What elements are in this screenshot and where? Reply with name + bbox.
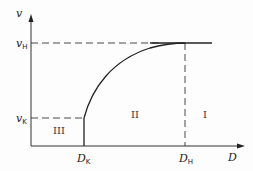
region-3-label: III xyxy=(53,126,65,136)
region-2-label: II xyxy=(131,110,139,120)
v-high-label: vH xyxy=(16,38,27,51)
y-axis-label: v xyxy=(16,8,22,19)
v-low-label: vK xyxy=(16,113,27,126)
x-axis-label: D xyxy=(228,152,237,163)
x-axis-arrow-icon xyxy=(237,144,245,149)
y-axis-arrow-icon xyxy=(29,14,34,22)
region-1-label: I xyxy=(203,110,207,120)
d-low-label: DK xyxy=(77,153,90,166)
diagram-graphics xyxy=(0,0,253,171)
d-high-label: DH xyxy=(179,153,193,166)
diagram-canvas: v vH vK DK DH D III II I xyxy=(0,0,253,171)
velocity-curve xyxy=(84,43,185,118)
